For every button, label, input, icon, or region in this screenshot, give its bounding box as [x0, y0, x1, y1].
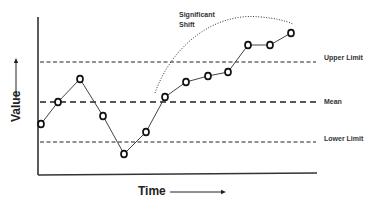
data-points — [38, 30, 294, 158]
data-point — [225, 69, 231, 76]
x-axis-title: Time — [138, 184, 166, 198]
mean-label: Mean — [324, 98, 342, 105]
lower-limit-label: Lower Limit — [324, 135, 363, 142]
data-point — [121, 151, 127, 158]
shift-annotation-line1: Significant — [179, 10, 215, 20]
data-point — [77, 76, 83, 83]
data-point — [143, 129, 149, 136]
data-point — [267, 42, 273, 49]
data-point — [162, 94, 168, 101]
control-chart — [0, 0, 372, 204]
x-axis-line — [38, 173, 317, 175]
y-axis-title: Value — [9, 91, 23, 122]
data-point — [38, 121, 44, 128]
data-point — [55, 99, 61, 106]
shift-arc — [155, 16, 293, 93]
data-point — [100, 113, 106, 120]
upper-limit-label: Upper Limit — [324, 54, 363, 61]
data-point — [205, 73, 211, 80]
data-point — [288, 30, 294, 37]
shift-annotation-line2: Shift — [179, 20, 195, 30]
data-point — [183, 79, 189, 86]
data-point — [245, 42, 251, 49]
x-axis-arrow-icon — [170, 190, 226, 194]
